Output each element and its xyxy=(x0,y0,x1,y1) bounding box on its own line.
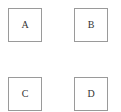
box-b-label: B xyxy=(88,20,95,30)
box-b: B xyxy=(74,8,108,42)
box-c-label: C xyxy=(22,89,29,99)
box-d-label: D xyxy=(87,89,94,99)
box-d: D xyxy=(74,77,108,111)
box-a: A xyxy=(8,8,42,42)
box-a-label: A xyxy=(21,20,28,30)
box-c: C xyxy=(8,77,42,111)
